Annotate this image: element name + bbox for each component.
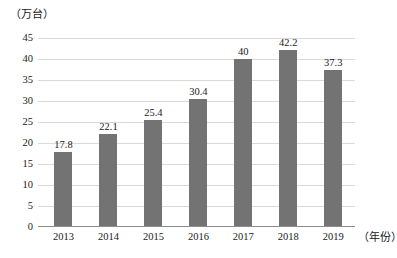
bar-value-label: 17.8 bbox=[41, 139, 86, 150]
bar-chart: （万台） 051015202530354045 17.8201322.12014… bbox=[0, 0, 397, 258]
y-axis-tick-label: 5 bbox=[28, 201, 33, 212]
y-axis-tick-label: 20 bbox=[23, 138, 34, 149]
bar[interactable] bbox=[324, 70, 342, 227]
x-axis-line bbox=[38, 226, 355, 227]
bar-group[interactable]: 30.42016 bbox=[176, 38, 221, 227]
x-axis-tick-label: 2015 bbox=[131, 231, 176, 243]
bar-value-label: 42.2 bbox=[266, 37, 311, 48]
bar[interactable] bbox=[99, 134, 117, 227]
x-axis-title: （年份） bbox=[358, 231, 397, 244]
y-axis-tick-label: 10 bbox=[23, 180, 34, 191]
plot-area: 051015202530354045 17.8201322.1201425.42… bbox=[38, 38, 355, 227]
y-axis-tick-label: 0 bbox=[28, 222, 33, 233]
bar[interactable] bbox=[189, 99, 207, 227]
bar-group[interactable]: 42.22018 bbox=[266, 38, 311, 227]
bar-value-label: 40 bbox=[221, 46, 266, 57]
y-axis-tick-label: 25 bbox=[23, 117, 34, 128]
bar-group[interactable]: 22.12014 bbox=[86, 38, 131, 227]
bar-group[interactable]: 17.82013 bbox=[41, 38, 86, 227]
x-axis-tick-label: 2018 bbox=[266, 231, 311, 243]
y-axis-tick-label: 45 bbox=[23, 33, 34, 44]
bar-group[interactable]: 25.42015 bbox=[131, 38, 176, 227]
bar-group[interactable]: 402017 bbox=[221, 38, 266, 227]
bar-value-label: 37.3 bbox=[311, 57, 356, 68]
x-axis-tick-label: 2014 bbox=[86, 231, 131, 243]
y-axis-tick-label: 35 bbox=[23, 75, 34, 86]
bar[interactable] bbox=[144, 120, 162, 227]
x-axis-tick-label: 2017 bbox=[221, 231, 266, 243]
y-axis-tick-label: 30 bbox=[23, 96, 34, 107]
bar[interactable] bbox=[279, 50, 297, 227]
y-axis-tick-label: 15 bbox=[23, 159, 34, 170]
bar-value-label: 30.4 bbox=[176, 86, 221, 97]
bar[interactable] bbox=[54, 152, 72, 227]
x-axis-tick-label: 2016 bbox=[176, 231, 221, 243]
x-axis-tick-label: 2013 bbox=[41, 231, 86, 243]
y-axis-unit-label: （万台） bbox=[10, 8, 54, 21]
y-axis-tick-label: 40 bbox=[23, 54, 34, 65]
bar-value-label: 22.1 bbox=[86, 121, 131, 132]
bar-value-label: 25.4 bbox=[131, 107, 176, 118]
x-axis-tick-label: 2019 bbox=[311, 231, 356, 243]
bar[interactable] bbox=[234, 59, 252, 227]
bar-group[interactable]: 37.32019 bbox=[311, 38, 356, 227]
